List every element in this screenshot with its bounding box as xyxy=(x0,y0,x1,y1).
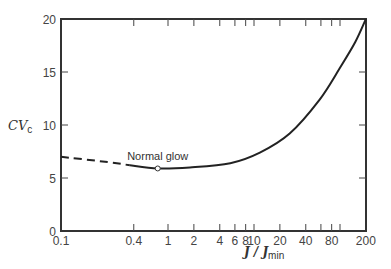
normal-glow-marker xyxy=(155,166,160,171)
x-tick-label: 80 xyxy=(325,234,339,248)
y-tick-label: 5 xyxy=(49,172,56,186)
x-tick-label: 20 xyxy=(273,234,287,248)
y-tick-label: 10 xyxy=(43,119,57,133)
y-axis-label: CVc xyxy=(8,118,32,135)
x-tick-label: 200 xyxy=(356,234,376,248)
plot-border xyxy=(61,19,366,231)
axis-ticks xyxy=(61,19,366,231)
y-tick-label: 0 xyxy=(49,225,56,239)
dashed-curve xyxy=(61,157,130,165)
x-tick-label: 2 xyxy=(191,234,198,248)
solid-curve xyxy=(130,19,366,169)
x-tick-label: 1 xyxy=(165,234,172,248)
x-tick-label: 40 xyxy=(299,234,313,248)
x-tick-label: 6 xyxy=(232,234,239,248)
normal-glow-label: Normal glow xyxy=(127,150,188,162)
x-tick-label: 0.4 xyxy=(125,234,142,248)
x-tick-label: 4 xyxy=(216,234,223,248)
chart: 0.10.4124681020408020005101520 Normal gl… xyxy=(0,0,391,269)
data-series xyxy=(61,19,366,169)
y-tick-label: 15 xyxy=(43,66,57,80)
plot-frame xyxy=(61,19,366,231)
tick-labels: 0.10.4124681020408020005101520 xyxy=(43,13,377,248)
y-tick-label: 20 xyxy=(43,13,57,27)
